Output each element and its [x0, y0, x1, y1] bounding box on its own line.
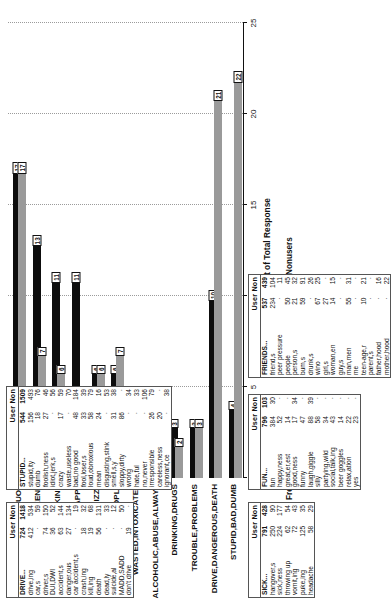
row-user-value: 156 — [27, 410, 35, 429]
row-user-value: 18 — [34, 410, 42, 429]
table-row: accident,s63144 — [57, 503, 65, 597]
table-row: kill,ing1968 — [87, 503, 95, 597]
table-row: idiot,jerk,s·56 — [49, 387, 57, 489]
table-row: stupid,ity156493 — [27, 387, 35, 489]
table-row: relax,ation22· — [345, 395, 353, 489]
row-label: no,never — [141, 429, 149, 489]
row-user-value: 22 — [345, 414, 353, 433]
row-non-value: 45 — [284, 275, 292, 296]
row-label: dumb — [34, 429, 42, 489]
table-row: disgusting,stink·53 — [103, 387, 111, 489]
row-non-value: 30 — [269, 395, 277, 414]
row-user-value: 19 — [87, 525, 95, 543]
row-non-value: 439 — [261, 275, 269, 296]
row-non-value: 34 — [125, 387, 133, 410]
row-non-value: 91 — [299, 275, 307, 296]
row-non-value: 131 — [95, 503, 103, 525]
row-user-value: 796 — [261, 414, 269, 433]
row-non-value: 70 — [65, 387, 73, 410]
table-row: funny47· — [299, 395, 307, 489]
row-user-value: 43 — [329, 414, 337, 433]
row-label: throwing up — [284, 544, 292, 597]
row-label: death — [95, 543, 103, 597]
row-non-value: 21 — [360, 275, 368, 296]
bar-value-label: 6 — [96, 365, 105, 374]
row-user-value: 19 — [125, 525, 133, 543]
row-label: foolish,ness — [42, 429, 50, 489]
row-label: teen-age,r — [360, 316, 368, 377]
grid-line — [8, 204, 243, 205]
row-user-value: 88 — [307, 414, 315, 433]
row-non-value: 184 — [72, 387, 80, 410]
table-row: sloppy,dirty86· — [118, 387, 126, 489]
table-header: User Non — [249, 503, 261, 597]
row-user-value: · — [72, 525, 80, 543]
row-non-value: 39 — [80, 387, 88, 410]
data-table: STUPID...5441509stupid,ity156493dumb1876… — [19, 387, 171, 489]
row-non-value: 11 — [276, 275, 284, 296]
row-label: great,er,est — [284, 433, 292, 489]
x-tick-label: 25 — [249, 19, 258, 28]
row-non-value: 134 — [65, 503, 73, 525]
bar-nonusers — [195, 423, 203, 478]
row-label: partying,wild — [322, 433, 330, 489]
row-user-value: 384 — [269, 414, 277, 433]
bar-value-label: 17 — [18, 163, 27, 174]
row-non-value: 16 — [95, 387, 103, 410]
table-row: girl,s27· — [322, 275, 330, 377]
row-non-value: 104 — [269, 275, 277, 296]
row-non-value: 43 — [291, 503, 299, 524]
table-row: great,er,est14· — [284, 395, 292, 489]
x-axis — [243, 23, 244, 478]
table-row: drive,ing412534 — [27, 503, 35, 597]
row-label: idiot,jerk,s — [49, 429, 57, 489]
row-label: woman,en — [329, 316, 337, 377]
row-label: funny — [299, 433, 307, 489]
row-user-value: 36 — [49, 525, 57, 543]
row-user-value: 27 — [42, 410, 50, 429]
row-user-value: 24 — [95, 410, 103, 429]
row-user-value: 17 — [291, 414, 299, 433]
row-non-value: 19 — [72, 503, 80, 525]
category-label: DRIVE,DANGEROUS,DEATH — [209, 484, 218, 616]
row-label: car accident,s — [72, 543, 80, 597]
row-non-value: 534 — [27, 503, 35, 525]
table-row: person,s2132 — [291, 275, 299, 377]
row-non-value: 34 — [291, 395, 299, 414]
row-label: car,s — [34, 543, 42, 597]
row-user-value: 20 — [156, 410, 164, 429]
table-row: car accident,s·19 — [72, 503, 80, 597]
table-row: friend,s234104 — [269, 275, 277, 377]
row-non-value: · — [352, 275, 360, 296]
table-row: SICK...791428 — [261, 503, 269, 597]
row-non-value: · — [337, 275, 345, 296]
table-row: don't drive19· — [125, 503, 133, 597]
row-user-value: · — [352, 296, 360, 316]
table-row: MADD,SADD·50 — [118, 503, 126, 597]
table-row: FRIENDS...537439 — [261, 275, 269, 377]
category-label: TROUBLE,PROBLEMS — [190, 484, 199, 616]
row-user-value: 125 — [299, 524, 307, 545]
table-row: throwing up6254 — [284, 503, 292, 597]
table-row: bum,s5991 — [299, 275, 307, 377]
row-user-value: 63 — [57, 525, 65, 543]
table-row: smell,s,y3138 — [110, 387, 118, 489]
table-row: sick,ness224177 — [276, 503, 284, 597]
row-non-value: 50 — [118, 503, 126, 525]
row-user-value: 14 — [284, 414, 292, 433]
x-tick — [243, 22, 247, 23]
x-tick — [243, 386, 247, 387]
row-user-value: · — [141, 410, 149, 429]
row-label: parent,s — [367, 316, 375, 377]
row-user-value: 23 — [352, 414, 360, 433]
row-label: headache — [307, 544, 315, 597]
row-label: social,talk,ing — [329, 433, 337, 489]
row-label: crazy — [57, 429, 65, 489]
table-row: DUI,DWI3652 — [49, 503, 57, 597]
x-tick — [243, 204, 247, 205]
row-user-value: 18 — [80, 525, 88, 543]
row-non-value: · — [156, 387, 164, 410]
row-user-value: 47 — [299, 414, 307, 433]
row-non-value: 493 — [27, 387, 35, 410]
row-non-value: 103 — [261, 395, 269, 414]
